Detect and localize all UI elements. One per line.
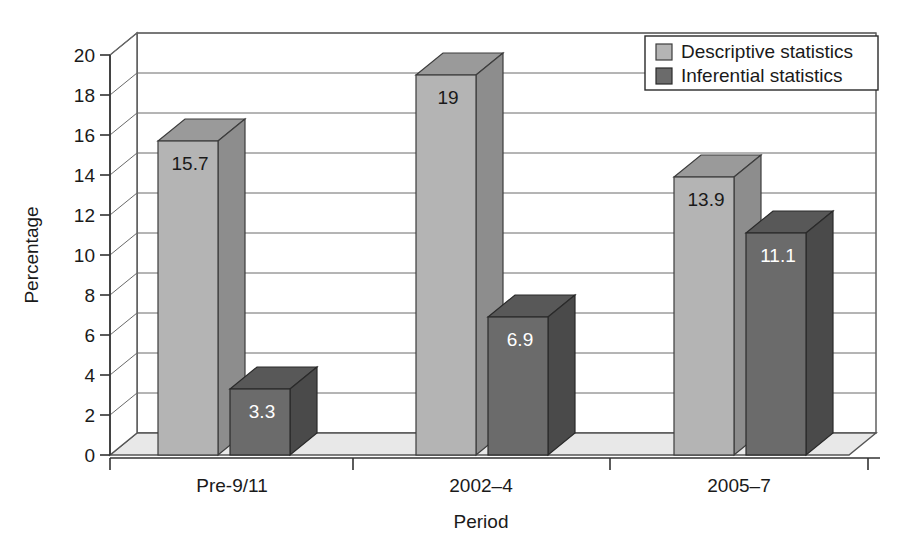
legend-item-descriptive[interactable]: Descriptive statistics — [656, 41, 853, 62]
bar-value-label: 11.1 — [760, 245, 796, 266]
y-tick-label: 6 — [84, 325, 95, 346]
bar-value-label: 3.3 — [249, 401, 275, 422]
bar-inferential-3[interactable]: 11.1 — [746, 211, 833, 455]
y-tick-label: 4 — [84, 365, 95, 386]
bar-value-label: 19 — [437, 87, 458, 108]
y-tick-label: 8 — [84, 285, 95, 306]
y-tick-label: 20 — [74, 45, 95, 66]
y-axis-tick-labels: 0 2 4 6 8 10 12 14 16 18 20 — [74, 45, 96, 466]
bar-front-face — [746, 233, 806, 455]
y-tick-label: 14 — [74, 165, 96, 186]
x-tick-label-2005-7: 2005–7 — [707, 475, 770, 496]
legend-swatch-inferential-icon — [656, 68, 672, 84]
legend-label-descriptive: Descriptive statistics — [681, 41, 853, 62]
bar-value-label: 6.9 — [507, 329, 533, 350]
bar-inferential-2[interactable]: 6.9 — [488, 295, 575, 455]
bar-side-face — [806, 211, 833, 455]
y-tick-label: 0 — [84, 445, 95, 466]
chart-canvas: 0 2 4 6 8 10 12 14 16 18 20 Percentage 1… — [0, 0, 913, 542]
bar-front-face — [416, 75, 476, 455]
x-tick-label-2002-4: 2002–4 — [449, 475, 513, 496]
x-axis: Pre-9/11 2002–4 2005–7 Period — [110, 458, 880, 532]
y-axis: 0 2 4 6 8 10 12 14 16 18 20 Percentage — [21, 45, 110, 466]
x-tick-label-pre-911: Pre-9/11 — [196, 475, 267, 496]
bar-side-face — [548, 295, 575, 455]
y-axis-title: Percentage — [21, 206, 42, 303]
y-axis-ticks — [100, 55, 110, 455]
legend: Descriptive statistics Inferential stati… — [645, 36, 878, 90]
y-tick-label: 18 — [74, 85, 95, 106]
bar-front-face — [230, 389, 290, 455]
legend-label-inferential: Inferential statistics — [681, 65, 843, 86]
y-tick-label: 10 — [74, 245, 95, 266]
legend-item-inferential[interactable]: Inferential statistics — [656, 65, 843, 86]
bar-value-label: 15.7 — [172, 153, 209, 174]
y-tick-label: 12 — [74, 205, 95, 226]
y-tick-label: 16 — [74, 125, 95, 146]
bar-chart-figure: 0 2 4 6 8 10 12 14 16 18 20 Percentage 1… — [0, 0, 913, 542]
legend-swatch-descriptive-icon — [656, 44, 672, 60]
y-tick-label: 2 — [84, 405, 95, 426]
bar-front-face — [158, 141, 218, 455]
bar-front-face — [674, 177, 734, 455]
bar-value-label: 13.9 — [688, 189, 725, 210]
bar-inferential-1[interactable]: 3.3 — [230, 367, 317, 455]
x-axis-title: Period — [454, 511, 509, 532]
x-axis-ticks — [110, 458, 868, 470]
